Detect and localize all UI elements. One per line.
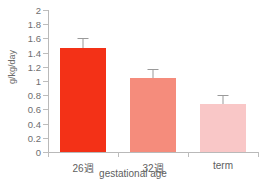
x-tick [48, 152, 49, 157]
x-tick [258, 152, 259, 157]
error-bar [130, 69, 176, 78]
y-tick-label: 0.8 [1, 90, 41, 101]
error-bar-stem [83, 38, 84, 48]
error-bar-stem [223, 95, 224, 104]
y-tick-label: 2 [1, 5, 41, 16]
y-tick-label: 0 [1, 147, 41, 158]
y-tick [43, 67, 48, 68]
x-tick [118, 152, 119, 157]
y-tick [43, 81, 48, 82]
x-axis-title: gestational age [0, 168, 266, 179]
y-tick-label: 1.8 [1, 19, 41, 30]
bar [200, 104, 246, 152]
y-tick-label: 0.4 [1, 118, 41, 129]
error-bar-stem [153, 69, 154, 78]
error-bar-cap [148, 69, 159, 70]
y-tick-label: 0.6 [1, 104, 41, 115]
plot-area: 00.20.40.60.811.21.41.61.82 [48, 10, 258, 152]
bar [130, 78, 176, 152]
y-tick-label: 1.4 [1, 47, 41, 58]
error-bar-cap [78, 38, 89, 39]
error-bar-cap [218, 95, 229, 96]
x-tick [188, 152, 189, 157]
x-axis-line [48, 152, 258, 153]
y-tick [43, 53, 48, 54]
y-tick [43, 124, 48, 125]
y-tick [43, 138, 48, 139]
error-bar [200, 95, 246, 104]
bar [60, 48, 106, 152]
y-tick [43, 95, 48, 96]
y-tick-label: 1 [1, 76, 41, 87]
y-axis-line [48, 10, 49, 153]
y-tick-label: 0.2 [1, 132, 41, 143]
bar-chart: g/kg/day 00.20.40.60.811.21.41.61.82 26週… [0, 0, 266, 189]
y-tick [43, 38, 48, 39]
y-tick-label: 1.2 [1, 61, 41, 72]
y-tick [43, 24, 48, 25]
y-tick-label: 1.6 [1, 33, 41, 44]
error-bar [60, 38, 106, 48]
y-tick [43, 10, 48, 11]
y-tick [43, 109, 48, 110]
